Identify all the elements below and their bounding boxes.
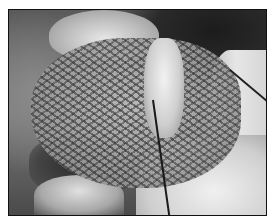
- photo-frame: [8, 9, 267, 216]
- surgical-mesh: [31, 38, 241, 188]
- center-tissue: [144, 38, 184, 138]
